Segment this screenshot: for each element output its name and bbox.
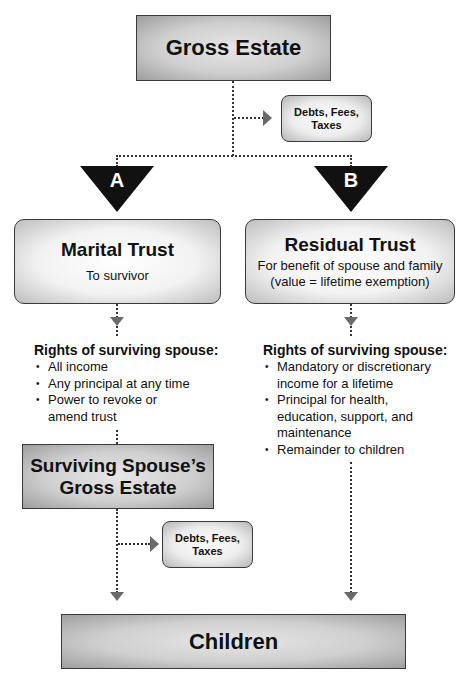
arrow-down-icon <box>344 317 358 326</box>
children-box: Children <box>61 614 406 669</box>
residual-trust-subtitle-2: (value = lifetime exemption) <box>270 274 429 290</box>
rights-a-heading: Rights of surviving spouse: <box>34 341 224 359</box>
debts-box-2-line2: Taxes <box>192 545 222 558</box>
connector-residual-rights <box>350 326 352 336</box>
branch-a-letter: A <box>97 169 137 192</box>
arrow-down-icon <box>110 592 124 601</box>
connector-residual-down <box>350 304 352 318</box>
branch-b-letter: B <box>331 169 371 192</box>
connector-estate-to-children <box>116 509 118 593</box>
gross-estate-box: Gross Estate <box>136 15 331 81</box>
rights-b-heading: Rights of surviving spouse: <box>263 341 457 359</box>
connector-to-debts-1 <box>234 117 264 119</box>
residual-trust-subtitle-1: For benefit of spouse and family <box>258 258 443 274</box>
arrow-right-icon <box>150 536 159 552</box>
marital-trust-subtitle: To survivor <box>86 267 149 284</box>
debts-box-1-line1: Debts, Fees, <box>294 106 359 119</box>
rights-list-b: Rights of surviving spouse: Mandatory or… <box>263 341 457 458</box>
arrow-down-icon <box>344 592 358 601</box>
branch-b-marker: B <box>314 166 388 212</box>
rights-b-item: Principal for health, education, support… <box>263 392 457 442</box>
rights-list-a: Rights of surviving spouse: All income A… <box>34 341 224 425</box>
rights-a-item: Any principal at any time <box>34 376 224 393</box>
rights-b-item: Remainder to children <box>263 442 457 459</box>
residual-trust-box: Residual Trust For benefit of spouse and… <box>245 219 455 304</box>
rights-b-item: Mandatory or discretionary income for a … <box>263 359 457 392</box>
residual-trust-title: Residual Trust <box>285 234 416 256</box>
connector-rights-a-to-estate <box>116 430 118 444</box>
rights-a-item: Power to revoke or amend trust <box>34 392 224 425</box>
connector-marital-down <box>116 304 118 318</box>
debts-box-1-line2: Taxes <box>311 119 341 132</box>
connector-marital-rights <box>116 326 118 336</box>
branch-a-marker: A <box>80 166 154 212</box>
marital-trust-title: Marital Trust <box>61 239 174 261</box>
arrow-right-icon <box>263 110 272 126</box>
surviving-spouse-estate-line1: Surviving Spouse’s <box>30 455 206 477</box>
surviving-spouse-estate-line2: Gross Estate <box>59 477 176 499</box>
children-label: Children <box>189 629 278 655</box>
connector-rights-b-to-children <box>350 462 352 593</box>
connector-to-debts-2 <box>118 543 150 545</box>
gross-estate-label: Gross Estate <box>166 35 302 61</box>
debts-fees-taxes-box-2: Debts, Fees, Taxes <box>162 521 253 568</box>
debts-fees-taxes-box-1: Debts, Fees, Taxes <box>281 95 372 142</box>
rights-a-item: All income <box>34 359 224 376</box>
connector-split-horizontal <box>116 155 352 157</box>
marital-trust-box: Marital Trust To survivor <box>14 219 221 304</box>
surviving-spouse-estate-box: Surviving Spouse’s Gross Estate <box>22 444 214 509</box>
debts-box-2-line1: Debts, Fees, <box>175 532 240 545</box>
arrow-down-icon <box>110 317 124 326</box>
